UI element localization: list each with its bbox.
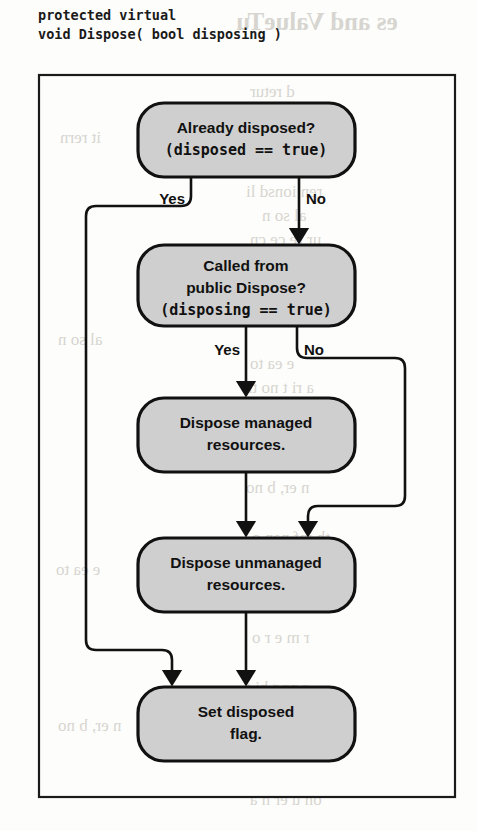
node-called-from-public-dispose-line-2: public Dispose? xyxy=(186,279,306,296)
node-dispose-unmanaged-line-2: resources. xyxy=(207,576,285,593)
node-dispose-managed-shape xyxy=(138,398,355,472)
node-dispose-unmanaged-shape xyxy=(138,538,355,612)
node-set-disposed-flag-line-1: Set disposed xyxy=(198,703,294,720)
node-called-from-public-dispose[interactable]: Called from public Dispose? (disposing =… xyxy=(138,245,355,326)
node-set-disposed-flag-line-2: flag. xyxy=(230,725,262,742)
node-called-from-public-dispose-line-1: Called from xyxy=(203,257,288,274)
edge-label-yes-2: Yes xyxy=(214,341,240,358)
edge-label-yes-1: Yes xyxy=(159,190,185,207)
node-already-disposed-line-2: (disposed == true) xyxy=(165,141,328,159)
node-already-disposed[interactable]: Already disposed? (disposed == true) xyxy=(138,103,355,177)
flowchart-svg: Yes No Yes No Already disposed? (dispose… xyxy=(0,0,477,831)
node-called-from-public-dispose-line-3: (disposing == true) xyxy=(160,301,332,319)
page-root: es and ValueTu d retur it rern e r. the … xyxy=(0,0,477,831)
edge-label-no-1: No xyxy=(306,190,326,207)
node-set-disposed-flag-shape xyxy=(138,687,355,761)
node-dispose-managed[interactable]: Dispose managed resources. xyxy=(138,398,355,472)
node-set-disposed-flag[interactable]: Set disposed flag. xyxy=(138,687,355,761)
node-dispose-managed-line-1: Dispose managed xyxy=(180,414,313,431)
node-dispose-unmanaged-line-1: Dispose unmanaged xyxy=(170,554,322,571)
node-dispose-unmanaged[interactable]: Dispose unmanaged resources. xyxy=(138,538,355,612)
edge-label-no-2: No xyxy=(304,341,324,358)
node-already-disposed-line-1: Already disposed? xyxy=(177,119,316,136)
node-already-disposed-shape xyxy=(138,103,355,177)
node-dispose-managed-line-2: resources. xyxy=(207,436,285,453)
